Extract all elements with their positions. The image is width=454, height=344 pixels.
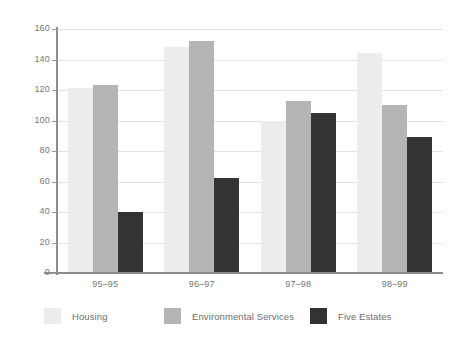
bar-chart: 020406080100120140160 95–9596–9797–9898–… [0, 0, 454, 344]
bar-group [68, 29, 143, 273]
bar-group [261, 29, 336, 273]
bar-housing[interactable] [68, 88, 93, 273]
bar-five-estates[interactable] [311, 113, 336, 273]
y-tick-mark [52, 212, 57, 213]
legend-swatch-icon [164, 308, 181, 324]
bar-five-estates[interactable] [214, 178, 239, 273]
y-tick-label: 140 [34, 55, 50, 64]
plot-area [57, 29, 443, 273]
y-tick-label: 80 [40, 146, 50, 155]
chart-legend: HousingEnvironmental ServicesFive Estate… [0, 306, 454, 330]
y-tick-mark [52, 273, 57, 274]
y-tick-mark [52, 90, 57, 91]
bar-five-estates[interactable] [118, 212, 143, 273]
bar-housing[interactable] [164, 47, 189, 273]
x-tick-label: 98–99 [355, 279, 435, 290]
bar-housing[interactable] [261, 121, 286, 274]
y-tick-mark [52, 29, 57, 30]
y-tick-label: 160 [34, 24, 50, 33]
bar-environmental[interactable] [286, 101, 311, 273]
y-tick-label: 120 [34, 85, 50, 94]
y-tick-mark [52, 243, 57, 244]
legend-label: Five Estates [338, 311, 391, 322]
y-tick-mark [52, 121, 57, 122]
legend-item[interactable]: Housing [44, 306, 108, 326]
x-tick-label: 95–95 [65, 279, 145, 290]
bar-environmental[interactable] [189, 41, 214, 273]
y-axis-labels: 020406080100120140160 [0, 0, 50, 344]
bar-group [357, 29, 432, 273]
legend-item[interactable]: Five Estates [310, 306, 391, 326]
legend-label: Housing [72, 311, 108, 322]
legend-label: Environmental Services [192, 311, 294, 322]
y-tick-label: 40 [40, 207, 50, 216]
y-tick-label: 60 [40, 177, 50, 186]
y-tick-mark [52, 60, 57, 61]
y-tick-label: 20 [40, 238, 50, 247]
bar-environmental[interactable] [93, 85, 118, 273]
bar-housing[interactable] [357, 53, 382, 273]
y-tick-mark [52, 182, 57, 183]
bar-environmental[interactable] [382, 105, 407, 273]
legend-item[interactable]: Environmental Services [164, 306, 294, 326]
y-tick-label: 100 [34, 116, 50, 125]
legend-swatch-icon [310, 308, 327, 324]
bar-five-estates[interactable] [407, 137, 432, 273]
x-axis-line [44, 272, 443, 274]
legend-swatch-icon [44, 308, 61, 324]
y-tick-mark [52, 151, 57, 152]
x-tick-label: 96–97 [162, 279, 242, 290]
bar-group [164, 29, 239, 273]
x-tick-label: 97–98 [258, 279, 338, 290]
